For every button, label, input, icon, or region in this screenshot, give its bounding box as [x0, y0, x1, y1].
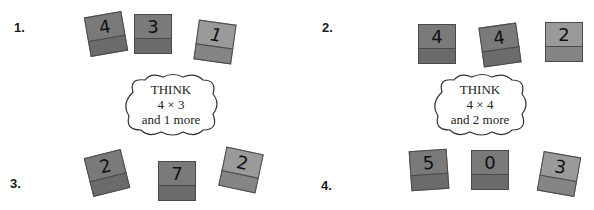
- block-remainder: 2: [545, 22, 583, 62]
- problem-number-1: 1.: [14, 20, 25, 35]
- block-tens: 4: [84, 11, 128, 57]
- block-tens: 2: [84, 149, 131, 197]
- block-ones: 0: [471, 150, 509, 190]
- problem-number-4: 4.: [321, 178, 332, 193]
- block-tens: 5: [409, 149, 450, 192]
- think-cloud-2: THINK4 × 4and 2 more: [430, 72, 530, 138]
- block-ones: 7: [158, 161, 196, 201]
- problem-number-2: 2.: [322, 20, 333, 35]
- block-tens: 4: [418, 24, 456, 64]
- block-remainder: 3: [537, 151, 581, 197]
- block-remainder: 1: [193, 20, 236, 65]
- problem-number-3: 3.: [10, 176, 21, 191]
- block-remainder: 2: [218, 146, 263, 193]
- block-ones: 3: [134, 14, 172, 54]
- think-cloud-1: THINK4 × 3and 1 more: [121, 72, 221, 138]
- block-ones: 4: [478, 23, 521, 68]
